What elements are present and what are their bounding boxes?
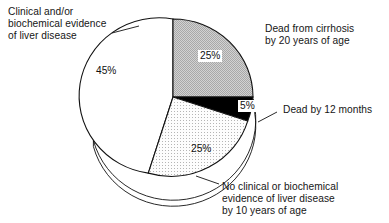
slice-value-label-5: 5% — [238, 100, 257, 112]
slice-value-label-25-cirrhosis: 25% — [198, 50, 222, 62]
callout-dead-cirrhosis: Dead from cirrhosis by 20 years of age — [265, 23, 389, 47]
leader-line-black-slice — [258, 112, 277, 122]
pie-chart-figure: Clinical and/or biochemical evidence of … — [0, 0, 389, 223]
callout-clinical-evidence: Clinical and/or biochemical evidence of … — [8, 6, 158, 41]
callout-no-evidence: No clinical or biochemical evidence of l… — [222, 181, 389, 216]
callout-dead-12-months: Dead by 12 months — [283, 104, 389, 116]
slice-value-label-45: 45% — [96, 65, 116, 77]
slice-value-label-25-no-evidence: 25% — [191, 143, 211, 155]
leader-line-bottom — [196, 176, 219, 184]
